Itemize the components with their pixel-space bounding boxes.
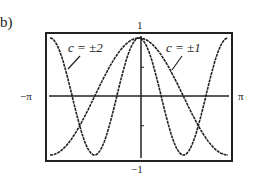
x-tick-right: π: [238, 90, 244, 102]
y-tick-top: 1: [137, 19, 143, 31]
annotation-c2: c = ±2: [68, 40, 103, 55]
annotation-c2-leader: [68, 56, 80, 69]
x-tick-left: −π: [20, 90, 32, 102]
chart: −π π 1 −1 c = ±2 c = ±1: [0, 0, 257, 175]
annotation-c1: c = ±1: [166, 40, 201, 55]
annotation-c1-leader: [172, 56, 182, 70]
y-tick-bottom: −1: [131, 163, 143, 175]
